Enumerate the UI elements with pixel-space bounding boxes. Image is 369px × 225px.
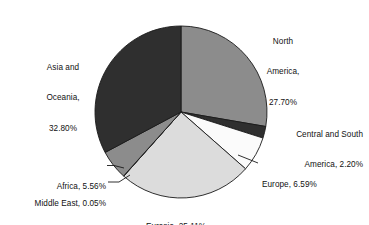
slice-label-asia-and-oceania-line3: 32.80% — [30, 124, 96, 134]
pie-slice-group — [95, 26, 267, 198]
slice-label-eurasia: Eurasia, 25.11% — [118, 201, 234, 225]
pie-chart-figure: North America, 27.70% Asia and Oceania, … — [0, 0, 369, 225]
slice-label-europe: Europe, 6.59% — [262, 159, 358, 210]
slice-label-asia-and-oceania-line2: Oceania, — [30, 93, 96, 103]
slice-label-middle-east-line1: Middle East, 0.05% — [2, 199, 106, 209]
slice-label-north-america-line3: 27.70% — [252, 98, 314, 108]
slice-label-asia-and-oceania-line1: Asia and — [30, 63, 96, 73]
slice-label-central-and-south-america-line1: Central and South — [245, 130, 363, 140]
slice-label-asia-and-oceania: Asia and Oceania, 32.80% — [30, 42, 96, 155]
slice-label-north-america-line1: North — [252, 37, 314, 47]
slice-label-north-america-line2: America, — [252, 67, 314, 77]
slice-label-eurasia-line1: Eurasia, 25.11% — [118, 222, 234, 225]
slice-label-europe-line1: Europe, 6.59% — [262, 180, 358, 190]
slice-label-middle-east: Middle East, 0.05% — [2, 178, 106, 225]
